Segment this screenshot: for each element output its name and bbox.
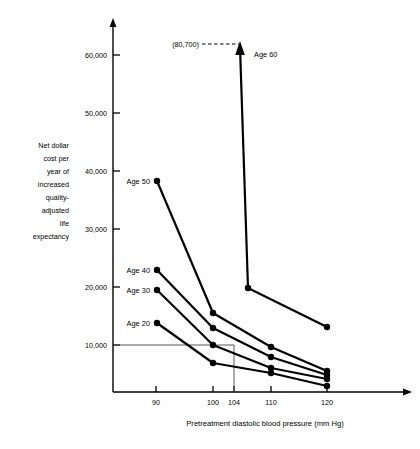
y-tick-label-50000: 50,000: [85, 109, 107, 118]
y-tick-marks: [113, 55, 120, 345]
chart-plot-area: 10,000 20,000 30,000 40,000 50,000 60,00…: [0, 0, 420, 449]
series-age-60: (80,700) Age 60: [172, 40, 330, 330]
y-axis-title-line-4: increased: [38, 180, 69, 189]
y-axis-title-line-2: cost per: [43, 154, 69, 163]
y-tick-label-30000: 30,000: [85, 225, 107, 234]
series-age-30-point-120: [324, 376, 330, 382]
series-age-20-point-90: [154, 320, 160, 326]
y-axis-arrowhead: [110, 18, 117, 27]
y-axis-title-line-5: quality-: [46, 193, 70, 202]
y-tick-labels: 10,000 20,000 30,000 40,000 50,000 60,00…: [85, 51, 107, 350]
x-axis: [113, 389, 412, 396]
series-age-30-point-100: [210, 342, 216, 348]
series-label-age-30: Age 30: [127, 286, 150, 295]
x-axis-title: Pretreatment diastolic blood pressure (m…: [186, 419, 344, 428]
series-age-40-point-100: [210, 325, 216, 331]
x-tick-label-120: 120: [321, 398, 333, 407]
series-age-20-point-110: [268, 370, 274, 376]
x-axis-arrowhead: [403, 389, 412, 396]
y-axis-title-line-7: life: [60, 219, 69, 228]
series-age-60-line: [240, 47, 327, 327]
series-age-20-line: [157, 323, 327, 386]
series-label-age-20: Age 20: [127, 319, 150, 328]
x-tick-label-100: 100: [207, 398, 219, 407]
chart-figure: 10,000 20,000 30,000 40,000 50,000 60,00…: [0, 0, 420, 449]
x-tick-label-110: 110: [265, 398, 276, 407]
age60-offscale-annotation: (80,700): [172, 40, 199, 49]
y-tick-label-40000: 40,000: [85, 167, 107, 176]
y-tick-label-20000: 20,000: [85, 283, 107, 292]
series-age-20: Age 20: [127, 319, 331, 389]
series-age-50-point-110: [268, 344, 274, 350]
x-tick-label-104: 104: [228, 398, 240, 407]
series-age-60-point-120: [324, 324, 330, 330]
series-age-50-point-90: [154, 178, 160, 184]
x-tick-labels: 90 100 104 110 120: [152, 398, 333, 407]
y-axis-title-line-1: Net dollar: [38, 141, 69, 150]
y-axis-title-line-3: year of: [47, 167, 69, 176]
series-age-50-point-100: [210, 310, 216, 316]
y-axis-title-line-8: expectancy: [33, 232, 70, 241]
series-label-age-50: Age 50: [127, 177, 150, 186]
series-age-40-point-90: [154, 267, 160, 273]
y-axis: [110, 18, 117, 392]
series-age-60-point-110: [245, 285, 251, 291]
series-age-20-point-100: [210, 360, 216, 366]
x-tick-marks: [156, 386, 327, 392]
x-tick-label-90: 90: [152, 398, 160, 407]
series-label-age-60: Age 60: [254, 50, 277, 59]
y-tick-label-60000: 60,000: [85, 51, 107, 60]
y-axis-title-line-6: adjusted: [42, 206, 69, 215]
series-label-age-40: Age 40: [127, 266, 150, 275]
series-age-40-point-110: [268, 354, 274, 360]
series-age-30-point-90: [154, 287, 160, 293]
series-age-30: Age 30: [127, 286, 331, 382]
series-age-60-offscale-arrowhead: [235, 41, 245, 55]
y-axis-title: Net dollar cost per year of increased qu…: [33, 141, 70, 241]
reference-lines: [113, 345, 234, 392]
series-age-20-point-120: [324, 383, 330, 389]
y-tick-label-10000: 10,000: [85, 341, 107, 350]
